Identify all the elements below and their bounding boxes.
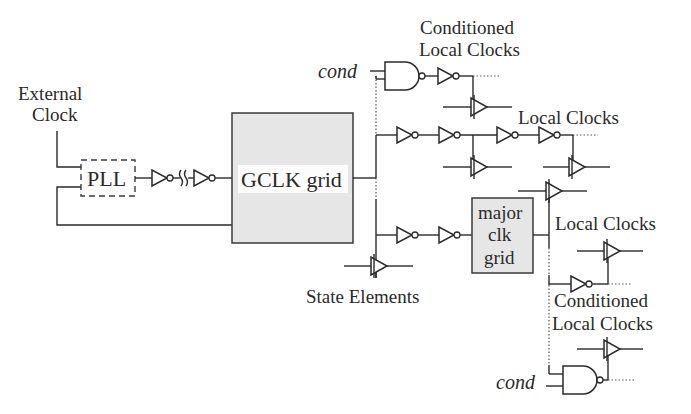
local-clocks-bottom-label: Local Clocks [555, 213, 656, 234]
inverter-icon [497, 127, 518, 143]
external-clock-label-2: Clock [32, 104, 78, 125]
major-clk-grid-label-3: grid [484, 247, 515, 268]
major-grid-driver-chain [376, 227, 472, 243]
local-clocks-top-label: Local Clocks [518, 107, 619, 128]
buffer-icon [604, 239, 620, 263]
clock-distribution-diagram: External Clock PLL GCLK grid cond [0, 0, 691, 414]
local-clock-chain-bottom [549, 239, 643, 292]
inverter-icon [152, 170, 173, 186]
inverter-icon [194, 170, 215, 186]
major-clk-grid-label-2: clk [488, 224, 512, 245]
conditioned-local-clocks-top-1: Conditioned [420, 17, 514, 38]
nand-gate-top [370, 62, 425, 90]
buffer-icon [371, 254, 387, 278]
gclk-grid-label: GCLK grid [241, 167, 342, 192]
nand-icon [385, 62, 419, 90]
inverter-icon [439, 227, 460, 243]
buffer-icon [604, 337, 620, 361]
pll-block: PLL [81, 160, 135, 196]
state-element [344, 254, 413, 278]
cond-label-bottom: cond [496, 371, 536, 393]
inverter-icon [397, 127, 418, 143]
external-clock-wire [57, 131, 81, 167]
major-clk-grid-label-1: major [478, 202, 523, 223]
major-clk-grid-block: major clk grid [472, 198, 533, 273]
inverter-icon [439, 127, 460, 143]
external-clock-label-1: External [18, 83, 82, 104]
cond-label-top: cond [318, 60, 358, 82]
local-clock-chain-top [376, 127, 610, 179]
nand-gate-bottom [546, 337, 643, 394]
buffer-icon [569, 155, 585, 179]
buffer-icon [471, 95, 487, 119]
gclk-grid-block: GCLK grid [232, 113, 353, 243]
buffer-icon [546, 179, 562, 203]
inverter-icon [539, 127, 560, 143]
inverter-icon [397, 227, 418, 243]
pll-label: PLL [87, 166, 126, 191]
conditioned-local-clocks-top-2: Local Clocks [419, 39, 520, 60]
nand-icon [563, 366, 597, 394]
pll-output-chain [135, 170, 232, 186]
inverter-icon [438, 68, 459, 84]
conditioned-local-clocks-bottom-1: Conditioned [554, 290, 648, 311]
conditioned-local-clocks-bottom-2: Local Clocks [552, 313, 653, 334]
buffer-icon [471, 155, 487, 179]
state-elements-label: State Elements [306, 286, 419, 307]
